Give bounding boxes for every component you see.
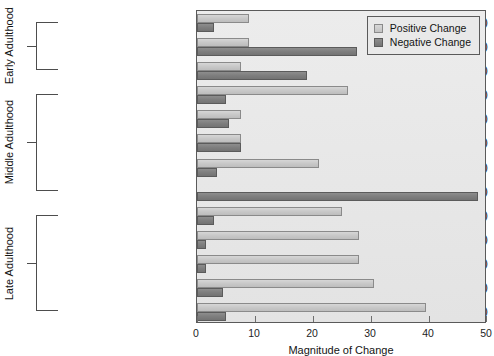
tick-label: 30	[364, 327, 376, 339]
bracket-vertical-line	[36, 215, 37, 311]
bracket-top-arm	[36, 215, 58, 216]
legend-label-negative-change: Negative Change	[390, 36, 471, 48]
bar-negative-change	[197, 288, 223, 297]
bracket-mid-arm	[27, 46, 36, 47]
bar-positive-change	[197, 134, 241, 143]
bar-negative-change	[197, 23, 214, 32]
tick-mark	[313, 316, 314, 322]
bar-negative-change	[197, 240, 206, 249]
bar-negative-change	[197, 143, 241, 152]
bar-negative-change	[197, 47, 357, 56]
legend: Positive Change Negative Change	[367, 16, 480, 55]
bracket-bottom-arm	[36, 190, 58, 191]
bracket-top-arm	[36, 22, 58, 23]
bar-positive-change	[197, 62, 241, 71]
bar-negative-change	[197, 71, 307, 80]
bar-negative-change	[197, 192, 478, 201]
tick-mark	[429, 316, 430, 322]
tick-mark	[371, 316, 372, 322]
group-bracket	[36, 22, 58, 70]
bracket-top-arm	[36, 94, 58, 95]
bar-positive-change	[197, 38, 249, 47]
group-bracket	[36, 215, 58, 311]
legend-label-positive-change: Positive Change	[390, 22, 466, 34]
tick-mark	[486, 316, 487, 322]
bar-negative-change	[197, 312, 226, 321]
bar-negative-change	[197, 168, 217, 177]
x-axis-title: Magnitude of Change	[261, 344, 421, 356]
group-label: Early Adulthood	[0, 22, 18, 70]
bar-positive-change	[197, 255, 359, 264]
bar-positive-change	[197, 159, 319, 168]
bar-negative-change	[197, 216, 214, 225]
tick-label: 50	[480, 327, 492, 339]
bar-negative-change	[197, 95, 226, 104]
tick-mark	[197, 316, 198, 322]
bar-positive-change	[197, 279, 374, 288]
legend-swatch-negative-change	[374, 38, 383, 47]
group-label: Late Adulthood	[0, 215, 18, 311]
bar-positive-change	[197, 110, 241, 119]
group-label: Middle Adulthood	[0, 94, 18, 190]
bracket-bottom-arm	[36, 69, 58, 70]
legend-item-negative: Negative Change	[374, 35, 471, 49]
bracket-mid-arm	[27, 142, 36, 143]
tick-label: 20	[306, 327, 318, 339]
bracket-bottom-arm	[36, 310, 58, 311]
legend-item-positive: Positive Change	[374, 21, 471, 35]
bar-positive-change	[197, 14, 249, 23]
tick-label: 10	[248, 327, 260, 339]
bar-positive-change	[197, 86, 348, 95]
legend-swatch-positive-change	[374, 24, 383, 33]
bar-positive-change	[197, 231, 359, 240]
bracket-mid-arm	[27, 263, 36, 264]
bar-positive-change	[197, 303, 426, 312]
tick-mark	[255, 316, 256, 322]
bracket-vertical-line	[36, 94, 37, 190]
bracket-vertical-line	[36, 22, 37, 70]
tick-label: 0	[193, 327, 199, 339]
bar-positive-change	[197, 207, 342, 216]
group-bracket	[36, 94, 58, 190]
bar-negative-change	[197, 264, 206, 273]
bar-negative-change	[197, 119, 229, 128]
tick-label: 40	[422, 327, 434, 339]
plot-area: Positive Change Negative Change	[196, 10, 486, 323]
